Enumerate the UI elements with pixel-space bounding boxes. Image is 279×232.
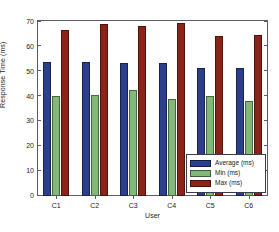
legend-entry: Min (ms) (190, 169, 262, 178)
legend-entry: Average (ms) (190, 159, 262, 168)
legend-swatch-avg (190, 160, 211, 167)
x-tick-mark (249, 196, 250, 199)
x-tick-mark (210, 196, 211, 199)
x-tick-label: C4 (167, 202, 176, 209)
bar-c4-max (177, 23, 185, 196)
legend-entry: Max (ms) (190, 179, 262, 188)
legend-label: Average (ms) (215, 160, 254, 167)
bar-group: C3 (114, 20, 153, 196)
bar-c1-avg (43, 62, 51, 196)
x-tick-mark (133, 196, 134, 199)
y-axis-label: Response Time (ms) (0, 42, 6, 108)
x-tick-label: C1 (52, 202, 61, 209)
y-tick-label: 0 (30, 192, 34, 199)
chart-legend: Average (ms)Min (ms)Max (ms) (186, 154, 266, 193)
y-tick-label: 30 (26, 117, 34, 124)
y-tick-label: 50 (26, 67, 34, 74)
bar-c1-min (52, 96, 60, 196)
bar-c3-min (129, 90, 137, 196)
bar-c2-avg (82, 62, 90, 196)
x-tick-label: C3 (129, 202, 138, 209)
bar-c4-avg (159, 63, 167, 197)
x-tick-mark (172, 196, 173, 199)
x-tick-mark (95, 196, 96, 199)
x-tick-label: C6 (244, 202, 253, 209)
bar-group: C2 (76, 20, 115, 196)
bar-c1-max (61, 30, 69, 196)
bar-c3-max (138, 26, 146, 196)
bar-group: C1 (37, 20, 76, 196)
bar-c2-min (91, 95, 99, 196)
bar-c3-avg (120, 63, 128, 197)
y-tick-label: 70 (26, 18, 34, 25)
x-tick-label: C2 (90, 202, 99, 209)
x-tick-mark (56, 196, 57, 199)
x-tick-label: C5 (206, 202, 215, 209)
legend-label: Max (ms) (215, 180, 242, 187)
y-tick-label: 20 (26, 142, 34, 149)
bar-c2-max (100, 24, 108, 196)
y-tick-label: 10 (26, 167, 34, 174)
y-tick-label: 60 (26, 42, 34, 49)
legend-swatch-max (190, 180, 211, 187)
bar-c4-min (168, 99, 176, 196)
legend-label: Min (ms) (215, 170, 240, 177)
y-tick-label: 40 (26, 92, 34, 99)
legend-swatch-min (190, 170, 211, 177)
chart-figure: Response Time (ms) 010203040506070 C1C2C… (0, 0, 279, 232)
x-axis-label: User (37, 212, 268, 219)
